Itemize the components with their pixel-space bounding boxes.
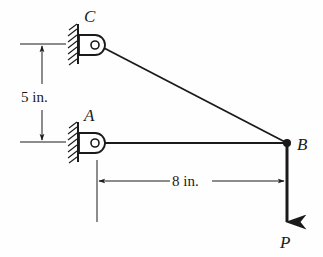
dimension-label-8in: 8 in. <box>172 173 199 189</box>
pin-c-icon <box>91 41 99 49</box>
member-cb <box>104 48 287 143</box>
label-c: C <box>84 7 96 26</box>
dimension-label-5in: 5 in. <box>21 89 48 105</box>
wall-support-a <box>68 122 105 163</box>
label-p: P <box>279 233 290 252</box>
structure-diagram: C A B P 5 in. 8 in. <box>0 0 323 257</box>
label-b: B <box>297 135 308 154</box>
diagram-canvas: C A B P 5 in. 8 in. <box>0 0 323 257</box>
label-a: A <box>83 106 95 125</box>
pin-a-icon <box>91 139 99 147</box>
horizontal-dimension <box>97 160 284 222</box>
wall-support-c <box>68 24 105 65</box>
